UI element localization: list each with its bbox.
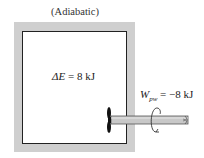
shaft — [111, 116, 188, 124]
paddle-wheel-assembly — [0, 0, 204, 158]
paddle-wheel-icon — [107, 107, 111, 133]
